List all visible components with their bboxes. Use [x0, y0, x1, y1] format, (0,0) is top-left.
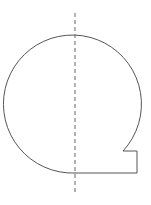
notched-circle-shape [3, 35, 141, 173]
diagram-canvas [0, 0, 151, 205]
